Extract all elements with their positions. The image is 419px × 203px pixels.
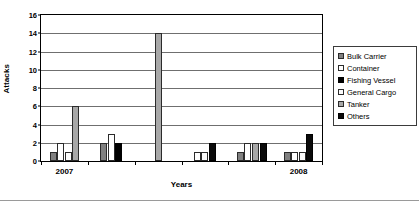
legend-swatch-icon — [338, 53, 344, 59]
legend-swatch-icon — [338, 65, 344, 71]
y-tick-label: 8 — [33, 84, 37, 93]
legend-label: Others — [347, 112, 370, 121]
bar — [72, 106, 79, 161]
bar — [284, 152, 291, 161]
bar — [209, 143, 216, 161]
bar-series-layer — [41, 15, 322, 161]
bar — [65, 152, 72, 161]
bar — [201, 152, 208, 161]
x-tick-label: 2007 — [56, 167, 74, 176]
legend-swatch-icon — [338, 113, 344, 119]
bar-group — [41, 15, 88, 161]
y-tick-label: 12 — [29, 47, 37, 56]
chart-figure: Attacks 0246810121416 20072008 Years Bul… — [0, 0, 419, 203]
bar — [291, 152, 298, 161]
bar-group — [275, 15, 322, 161]
legend-label: Fishing Vessel — [347, 76, 395, 85]
x-axis-title: Years — [40, 180, 323, 189]
legend-label: Tanker — [347, 100, 370, 109]
bar — [252, 143, 259, 161]
bar — [115, 143, 122, 161]
legend-swatch-icon — [338, 101, 344, 107]
x-tick-mark — [135, 161, 136, 165]
legend-item[interactable]: Fishing Vessel — [338, 74, 413, 86]
plot-area: 0246810121416 20072008 — [40, 14, 323, 162]
legend-item[interactable]: Others — [338, 110, 413, 122]
x-tick-mark — [322, 161, 323, 165]
bar-group — [88, 15, 135, 161]
x-tick-label: 2008 — [290, 167, 308, 176]
bar — [299, 152, 306, 161]
bar — [194, 152, 201, 161]
bar — [155, 33, 162, 161]
bar — [244, 143, 251, 161]
bar — [100, 143, 107, 161]
x-tick-mark — [275, 161, 276, 165]
bar — [306, 134, 313, 161]
x-tick-mark — [88, 161, 89, 165]
legend-item[interactable]: Tanker — [338, 98, 413, 110]
bar — [108, 134, 115, 161]
y-tick-label: 2 — [33, 138, 37, 147]
legend: Bulk CarrierContainerFishing VesselGener… — [333, 46, 417, 126]
y-tick-label: 0 — [33, 157, 37, 166]
bottom-divider — [0, 200, 419, 201]
bar-group — [182, 15, 229, 161]
y-axis-title: Attacks — [2, 64, 16, 94]
bar — [260, 143, 267, 161]
y-tick-label: 10 — [29, 65, 37, 74]
y-tick-label: 4 — [33, 120, 37, 129]
y-tick-label: 6 — [33, 102, 37, 111]
bar — [237, 152, 244, 161]
legend-item[interactable]: General Cargo — [338, 86, 413, 98]
legend-item[interactable]: Container — [338, 62, 413, 74]
legend-label: Bulk Carrier — [347, 52, 387, 61]
legend-swatch-icon — [338, 77, 344, 83]
bar — [50, 152, 57, 161]
bar-group — [135, 15, 182, 161]
legend-swatch-icon — [338, 89, 344, 95]
bar — [57, 143, 64, 161]
x-tick-mark — [182, 161, 183, 165]
legend-label: General Cargo — [347, 88, 396, 97]
legend-item[interactable]: Bulk Carrier — [338, 50, 413, 62]
bar-group — [228, 15, 275, 161]
legend-label: Container — [347, 64, 380, 73]
y-tick-label: 16 — [29, 11, 37, 20]
x-tick-mark — [228, 161, 229, 165]
y-tick-label: 14 — [29, 29, 37, 38]
x-tick-mark — [41, 161, 42, 165]
